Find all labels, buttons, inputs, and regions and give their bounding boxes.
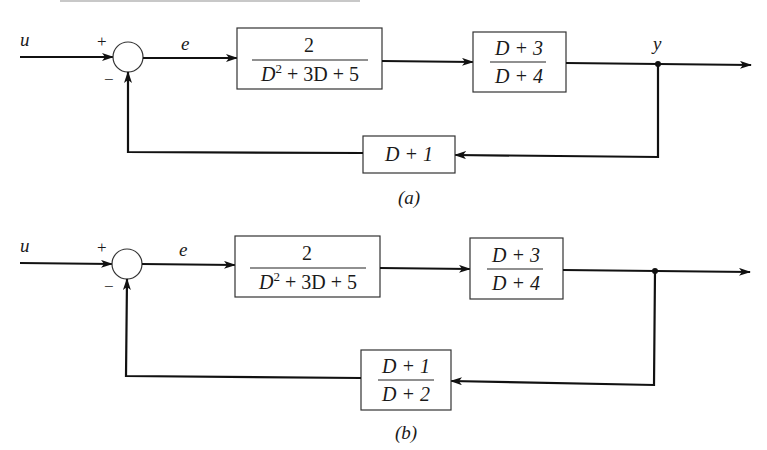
plus-sign: + [97, 238, 107, 257]
block2-denominator: D + 4 [491, 272, 540, 294]
output-label-y: y [651, 33, 662, 54]
forward-block-1: 2 D2 + 3D + 5 [235, 236, 380, 297]
caption-a: (a) [398, 187, 420, 209]
plus-sign: + [97, 32, 107, 51]
block1-denominator: D2 + 3D + 5 [260, 61, 359, 85]
diagram-b: u + − e 2 D2 + 3D + 5 D + 3 D + 4 D + 1 … [20, 235, 750, 444]
block2-numerator: D + 3 [494, 37, 543, 59]
block2-numerator: D + 3 [491, 244, 540, 266]
feedback-block: D + 1 D + 2 [361, 350, 451, 410]
error-label-e: e [181, 33, 189, 54]
block1-numerator: 2 [304, 34, 314, 56]
cropped-text-fragment [60, 0, 360, 2]
feedback-numerator: D + 1 [381, 355, 430, 377]
summing-junction [112, 249, 142, 279]
feedback-block: D + 1 [363, 136, 455, 173]
feedback-denominator: D + 2 [381, 383, 430, 405]
minus-sign: − [104, 70, 114, 89]
error-arrow [142, 264, 235, 265]
input-arrow [20, 263, 112, 264]
input-label-u: u [20, 29, 30, 50]
forward-block-2: D + 3 D + 4 [473, 32, 566, 92]
block1-to-block2-arrow [382, 61, 473, 62]
block-diagrams: u + − e 2 D2 + 3D + 5 D + 3 D + 4 y [0, 0, 767, 450]
feedback-expression: D + 1 [384, 143, 433, 165]
block1-denominator: D2 + 3D + 5 [258, 269, 357, 293]
block2-denominator: D + 4 [494, 65, 543, 87]
block1-numerator: 2 [302, 242, 312, 264]
forward-block-1: 2 D2 + 3D + 5 [237, 28, 382, 89]
summing-junction [113, 42, 143, 72]
block1-to-block2-arrow [380, 268, 470, 269]
caption-b: (b) [395, 422, 417, 444]
error-label-e: e [179, 239, 187, 260]
minus-sign: − [104, 277, 114, 296]
forward-block-2: D + 3 D + 4 [470, 238, 563, 299]
input-label-u: u [20, 235, 30, 256]
diagram-a: u + − e 2 D2 + 3D + 5 D + 3 D + 4 y [20, 28, 751, 209]
